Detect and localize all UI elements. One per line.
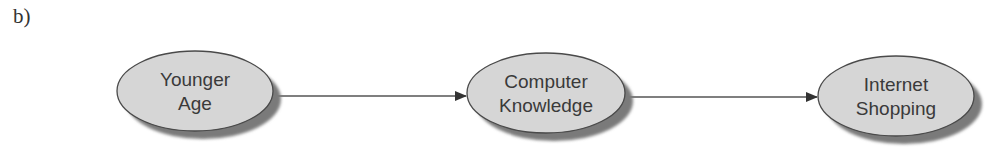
node-label-line2: Knowledge (499, 95, 593, 116)
node-computer-knowledge: Computer Knowledge (467, 53, 633, 141)
node-label-line1: Internet (864, 74, 929, 95)
path-diagram: Younger Age Computer Knowledge Internet … (0, 0, 992, 166)
node-label-line1: Computer (504, 71, 588, 92)
node-label-line1: Younger (160, 69, 231, 90)
node-internet-shopping: Internet Shopping (818, 56, 982, 144)
node-ellipse (818, 56, 974, 136)
node-label-line2: Age (178, 93, 212, 114)
node-ellipse (467, 53, 625, 133)
node-label-line2: Shopping (856, 98, 936, 119)
node-younger-age: Younger Age (117, 51, 281, 139)
node-ellipse (117, 51, 273, 131)
